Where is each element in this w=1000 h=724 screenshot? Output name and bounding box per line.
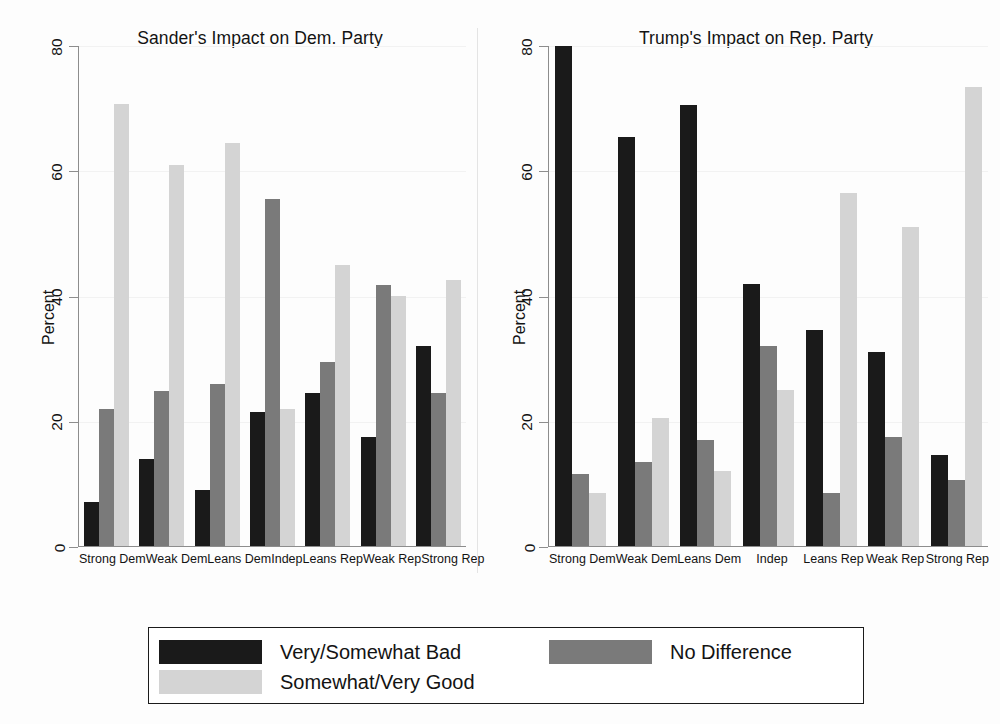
bar <box>320 362 335 546</box>
y-tick-label: 20 <box>517 414 535 431</box>
legend-item-no-difference: No Difference <box>549 640 792 664</box>
legend-swatch-no-difference <box>549 640 652 664</box>
bar-group <box>800 46 863 546</box>
bar <box>169 165 184 546</box>
y-tick-label: 0 <box>522 543 540 552</box>
x-axis-tick-label: Leans Rep <box>303 552 363 566</box>
bar <box>965 87 982 546</box>
x-axis-tick-label: Leans Dem <box>207 552 271 566</box>
x-axis-tick-label: Leans Rep <box>803 552 865 566</box>
bar <box>885 437 902 546</box>
x-axis-tick-label: Indep <box>271 552 302 566</box>
x-axis-tick-label: Weak Dem <box>146 552 208 566</box>
bar-group <box>245 46 300 546</box>
legend-label-very-somewhat-bad: Very/Somewhat Bad <box>280 641 461 664</box>
chart-page: Sander's Impact on Dem. Party Percent 02… <box>0 0 1000 724</box>
bar <box>446 280 461 546</box>
bar <box>335 265 350 546</box>
bar-group <box>674 46 737 546</box>
x-axis-tick-label: Leans Dem <box>677 552 741 566</box>
bar-group <box>134 46 189 546</box>
bar <box>154 391 169 546</box>
y-tick: 40 <box>69 297 78 298</box>
bar <box>823 493 840 546</box>
bar <box>555 46 572 546</box>
panel-trump: Trump's Impact on Rep. Party Percent 020… <box>478 0 1000 600</box>
bar <box>902 227 919 546</box>
bar-group <box>863 46 926 546</box>
bar <box>714 471 731 546</box>
x-axis-line-right <box>548 546 988 547</box>
bar <box>114 104 129 547</box>
y-tick-label: 60 <box>47 163 65 180</box>
x-axis-tick-label: Strong Rep <box>926 552 989 566</box>
bar-group <box>737 46 800 546</box>
bar <box>361 437 376 546</box>
chart-panels: Sander's Impact on Dem. Party Percent 02… <box>0 0 1000 600</box>
bar-group <box>925 46 988 546</box>
bar <box>572 474 589 546</box>
bar <box>139 459 154 547</box>
bar <box>777 390 794 546</box>
y-tick: 20 <box>69 422 78 423</box>
y-tick-label: 40 <box>517 288 535 305</box>
bar <box>840 193 857 546</box>
y-tick: 60 <box>69 171 78 172</box>
bar <box>743 284 760 547</box>
bar <box>589 493 606 546</box>
y-tick: 80 <box>69 46 78 47</box>
bar <box>760 346 777 546</box>
bar <box>195 490 210 546</box>
bar-group <box>411 46 466 546</box>
y-tick: 80 <box>539 46 548 47</box>
bar <box>868 352 885 546</box>
x-axis-tick-label: Strong Dem <box>549 552 616 566</box>
x-axis-line-left <box>78 546 466 547</box>
bar-group <box>355 46 410 546</box>
y-tick-label: 40 <box>47 288 65 305</box>
chart-legend: Very/Somewhat Bad No Difference Somewhat… <box>148 627 864 704</box>
bar <box>265 199 280 546</box>
y-tick: 20 <box>539 422 548 423</box>
legend-row-1: Very/Somewhat Bad No Difference <box>159 637 863 667</box>
bar <box>806 330 823 546</box>
bar-groups-left <box>79 46 466 546</box>
bar <box>618 137 635 546</box>
bar <box>84 502 99 546</box>
y-tick: 60 <box>539 171 548 172</box>
x-axis-tick-label: Indep <box>741 552 803 566</box>
y-tick-label: 60 <box>517 163 535 180</box>
y-tick: 0 <box>539 547 548 548</box>
bar-group <box>300 46 355 546</box>
legend-row-2: Somewhat/Very Good <box>159 667 863 697</box>
y-tick: 40 <box>539 297 548 298</box>
bar <box>391 296 406 546</box>
y-tick-label: 80 <box>517 38 535 55</box>
legend-label-no-difference: No Difference <box>670 641 792 664</box>
legend-item-somewhat-very-good: Somewhat/Very Good <box>159 670 549 694</box>
x-axis-tick-label: Strong Rep <box>421 552 484 566</box>
x-axis-labels-left: Strong DemWeak DemLeans DemIndepLeans Re… <box>79 552 467 566</box>
bar-groups-right <box>549 46 988 546</box>
legend-item-very-somewhat-bad: Very/Somewhat Bad <box>159 640 549 664</box>
panel-sanders: Sander's Impact on Dem. Party Percent 02… <box>0 0 478 600</box>
legend-label-somewhat-very-good: Somewhat/Very Good <box>280 671 475 694</box>
x-axis-tick-label: Weak Dem <box>616 552 678 566</box>
y-tick: 0 <box>69 547 78 548</box>
x-axis-tick-label: Weak Rep <box>363 552 421 566</box>
bar-group <box>612 46 675 546</box>
bar <box>376 285 391 546</box>
bar <box>431 393 446 546</box>
bar <box>210 384 225 547</box>
x-axis-labels-right: Strong DemWeak DemLeans DemIndepLeans Re… <box>549 552 989 566</box>
bar-group <box>549 46 612 546</box>
bar <box>635 462 652 546</box>
bar <box>305 393 320 546</box>
panel-divider <box>477 28 478 573</box>
bar <box>416 346 431 546</box>
plot-area-left: 020406080 <box>78 46 466 547</box>
bar <box>99 409 114 547</box>
y-tick-label: 20 <box>47 414 65 431</box>
bar <box>225 143 240 546</box>
bar <box>250 412 265 546</box>
